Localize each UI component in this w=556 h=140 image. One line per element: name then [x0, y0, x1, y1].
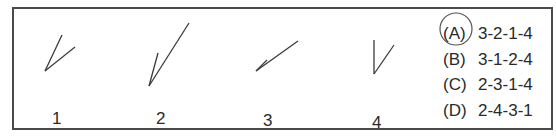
figure-label-4: 4 — [372, 114, 381, 131]
angle-figures — [0, 0, 556, 140]
option-b[interactable]: (B)3-1-2-4 — [443, 51, 533, 68]
figure-label-2: 2 — [156, 110, 165, 127]
option-letter: (C) — [443, 76, 478, 93]
option-d[interactable]: (D)2-4-3-1 — [443, 102, 533, 119]
option-letter: (A) — [443, 25, 478, 42]
option-sequence: 3-1-2-4 — [478, 51, 533, 68]
figure-label-1: 1 — [52, 110, 61, 127]
figure-1-angle — [45, 35, 75, 71]
option-sequence: 3-2-1-4 — [478, 25, 533, 42]
figure-2-angle — [149, 23, 189, 86]
option-sequence: 2-3-1-4 — [478, 76, 533, 93]
option-letter: (B) — [443, 51, 478, 68]
option-a[interactable]: (A)3-2-1-4 — [443, 25, 533, 42]
figure-label-3: 3 — [263, 112, 272, 129]
option-c[interactable]: (C)2-3-1-4 — [443, 76, 533, 93]
figure-3-angle — [256, 41, 298, 71]
option-sequence: 2-4-3-1 — [478, 102, 533, 119]
option-letter: (D) — [443, 102, 478, 119]
figure-4-angle — [374, 40, 394, 74]
